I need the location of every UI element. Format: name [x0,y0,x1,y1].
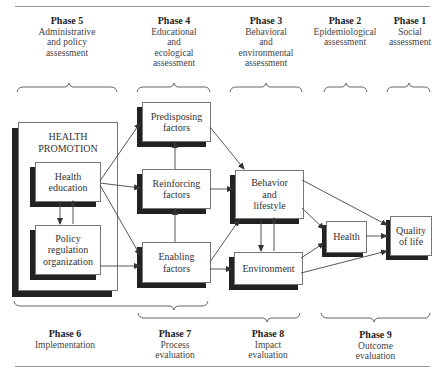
phase-5-label: Phase 5 Administrative and policy assess… [17,16,117,58]
phase-4-desc-line: ecological [135,48,213,59]
bottom-rule [15,366,430,367]
phase-3-desc-line: environmental [224,48,308,59]
phase-1-desc-line: Social [382,27,438,38]
reinforcing-line: factors [153,189,201,201]
policy-line: organization [43,256,93,268]
brace-phase-9 [321,313,430,322]
arrow-environment-to-quality [301,251,387,273]
phase-8-desc-line: evaluation [233,350,303,361]
policy-regulation-organization-box: Policy regulation organization [35,225,101,275]
phase-3-desc-line: and [224,37,308,48]
health-education-line: education [49,182,88,194]
phase-9-number: Phase 9 [338,330,413,341]
phase-7-label: Phase 7 Process evaluation [140,329,210,361]
health-education-box: Health education [35,162,101,202]
policy-line: Policy [43,233,93,245]
phase-3-label: Phase 3 Behavioral and environmental ass… [224,16,308,69]
phase-1-desc-line: assessment [382,37,438,48]
phase-8-desc-line: Impact [233,340,303,351]
phase-4-desc-line: assessment [135,58,213,69]
brace-phase-7-8 [138,313,300,322]
phase-3-desc-line: assessment [224,58,308,69]
health-promotion-title: HEALTH PROMOTION [19,131,117,154]
phase-6-label: Phase 6 Implementation [10,329,120,350]
health-promotion-title-line: HEALTH [19,131,117,143]
phase-9-label: Phase 9 Outcome evaluation [338,330,413,362]
brace-phase-5 [17,83,117,92]
phase-2-number: Phase 2 [310,16,380,27]
behavior-lifestyle-box: Behavior and lifestyle [235,170,304,219]
phase-1-number: Phase 1 [382,16,438,27]
brace-phase-6 [14,301,208,310]
health-box: Health [326,221,367,253]
behavior-line: lifestyle [251,200,288,212]
phase-4-number: Phase 4 [135,16,213,27]
phase-9-desc-line: Outcome [338,341,413,352]
phase-2-desc-line: assessment [310,37,380,48]
phase-7-number: Phase 7 [140,329,210,340]
brace-phase-1 [387,83,430,92]
brace-phase-3 [230,83,302,92]
phase-9-desc-line: evaluation [338,351,413,362]
quality-of-life-box: Quality of life [390,216,432,256]
behavior-line: and [251,189,288,201]
phase-5-desc-line: Administrative [17,27,117,38]
phase-1-label: Phase 1 Social assessment [382,16,438,48]
quality-line: Quality [396,225,426,237]
reinforcing-line: Reinforcing [153,178,201,190]
phase-4-desc-line: and [135,37,213,48]
phase-5-number: Phase 5 [17,16,117,27]
phase-4-label: Phase 4 Educational and ecological asses… [135,16,213,69]
arrow-behavior-to-quality [302,180,387,225]
phase-4-desc-line: Educational [135,27,213,38]
behavior-line: Behavior [251,177,288,189]
phase-5-desc-line: and policy [17,37,117,48]
predisposing-line: factors [151,122,203,134]
reinforcing-factors-box: Reinforcing factors [142,169,211,209]
arrow-behavior-to-health [302,208,324,229]
health-label: Health [333,231,360,243]
phase-5-desc-line: assessment [17,48,117,59]
quality-line: of life [396,236,426,248]
enabling-line: Enabling [158,251,194,263]
phase-8-label: Phase 8 Impact evaluation [233,329,303,361]
health-education-line: Health [49,171,88,183]
phase-3-desc-line: Behavioral [224,27,308,38]
phase-3-number: Phase 3 [224,16,308,27]
arrow-environment-to-health [301,243,324,258]
enabling-factors-box: Enabling factors [142,242,211,283]
brace-phase-4 [137,83,210,92]
brace-phase-2 [324,83,367,92]
health-promotion-title-line: PROMOTION [19,143,117,155]
predisposing-factors-box: Predisposing factors [142,102,211,142]
phase-6-number: Phase 6 [10,329,120,340]
phase-2-label: Phase 2 Epidemiological assessment [310,16,380,48]
policy-line: regulation [43,244,93,256]
phase-2-desc-line: Epidemiological [310,27,380,38]
arrow-predisposing-to-behavior [210,127,244,169]
phase-7-desc-line: evaluation [140,350,210,361]
phase-7-desc-line: Process [140,340,210,351]
enabling-line: factors [158,263,194,275]
phase-8-number: Phase 8 [233,329,303,340]
phase-6-desc: Implementation [10,340,120,351]
environment-box: Environment [234,252,303,285]
top-rule [15,6,430,7]
environment-label: Environment [242,263,294,275]
predisposing-line: Predisposing [151,111,203,123]
